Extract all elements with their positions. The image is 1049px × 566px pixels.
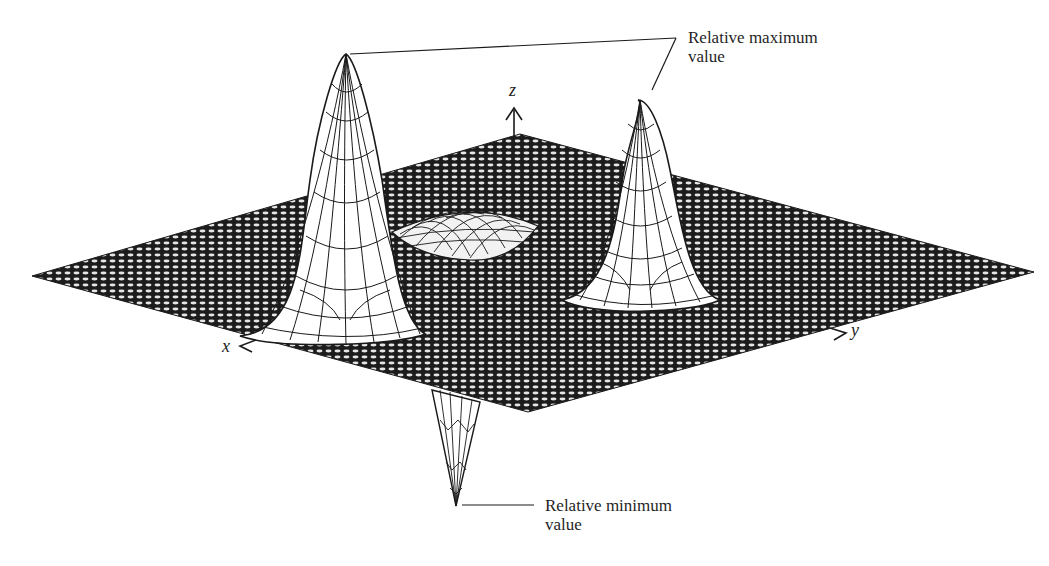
relative-minimum-label: Relative minimum value [545, 496, 672, 534]
relative-maximum-line1: Relative maximum [688, 28, 818, 47]
relative-minimum-line2: value [545, 515, 672, 534]
surface-plot [0, 0, 1049, 566]
relative-minimum-line1: Relative minimum [545, 496, 672, 515]
y-axis [830, 328, 846, 340]
z-axis-label: z [509, 80, 516, 101]
mesh-plane [32, 134, 1034, 412]
relative-maximum-label: Relative maximum value [688, 28, 818, 66]
x-axis [240, 340, 256, 352]
relative-maximum-line2: value [688, 47, 818, 66]
relative-minimum-spike [432, 390, 480, 506]
x-axis-label: x [222, 336, 230, 357]
y-axis-label: y [851, 320, 859, 341]
